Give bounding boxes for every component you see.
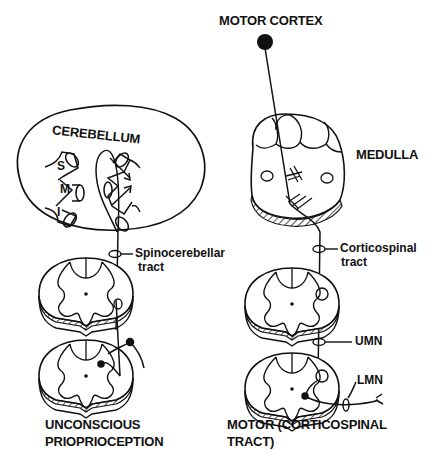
left-caption-line2: PRIOPRIOCEPTION	[45, 435, 163, 450]
lmn-label: LMN	[357, 374, 383, 388]
folia-m-label: M	[60, 183, 70, 197]
medulla-label: MEDULLA	[356, 148, 418, 163]
spinocerebellar-label-line1: Spinocerebellar	[135, 247, 225, 261]
cerebellar-folia-right	[104, 151, 140, 234]
corticospinal-label-line1: Corticospinal	[340, 242, 417, 256]
spinal-cord-right-upper	[245, 268, 339, 346]
umn-label: UMN	[355, 335, 382, 349]
left-caption-line1: UNCONSCIOUS	[45, 418, 140, 433]
spinocerebellar-marker	[109, 251, 121, 258]
motor-cortex-neuron	[257, 34, 273, 50]
right-caption-line1: MOTOR (CORTICOSPINAL	[227, 418, 387, 433]
spinocerebellar-label-line2: tract	[138, 261, 164, 275]
diagram-drawing	[0, 0, 437, 460]
folia-s-label: S	[57, 160, 65, 174]
corticospinal-label-line2: tract	[341, 256, 367, 270]
spinal-cord-left-upper	[39, 258, 133, 336]
right-caption-line2: TRACT)	[227, 435, 274, 450]
motor-cortex-label: MOTOR CORTEX	[219, 14, 323, 29]
cerebellum-outline	[17, 105, 204, 230]
folia-i-label: I	[57, 206, 60, 220]
neuro-pathway-diagram: MOTOR CORTEX CEREBELLUM MEDULLA S M I Sp…	[0, 0, 437, 460]
